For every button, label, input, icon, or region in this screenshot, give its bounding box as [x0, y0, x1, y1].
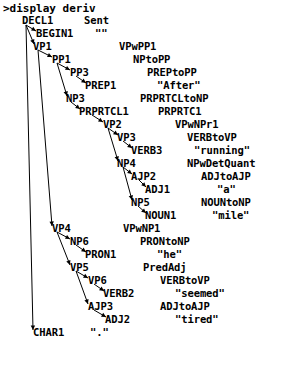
tree-rule-label: VPwNP1: [123, 222, 160, 234]
tree-node-label: VP2: [103, 118, 122, 130]
tree-rule-label: "tired": [175, 313, 219, 325]
terminal-screen: >display deriv DECL1SentBEGIN1""VP1VPwPP…: [0, 0, 291, 390]
tree-rule-label: VPwPP1: [119, 40, 156, 52]
tree-rule-label: "running": [194, 144, 250, 156]
tree-rule-label: PRONtoNP: [140, 235, 190, 247]
tree-rule-label: "a": [217, 183, 236, 195]
tree-rule-label: "": [95, 27, 107, 39]
tree-rule-label: ADJtoAJP: [201, 170, 251, 182]
tree-node-label: PP3: [70, 66, 89, 78]
tree-edge: [26, 25, 33, 330]
tree-node-label: VERB2: [103, 287, 134, 299]
tree-node-label: NOUN1: [145, 209, 176, 221]
tree-node-label: DECL1: [22, 14, 53, 26]
tree-node-label: NP5: [131, 196, 150, 208]
tree-node-label: VERB3: [131, 144, 162, 156]
tree-node-label: VP3: [117, 131, 136, 143]
tree-node-label: VP5: [70, 261, 89, 273]
tree-node-label: ADJ2: [105, 313, 130, 325]
tree-rule-label: NOUNtoNP: [201, 196, 251, 208]
tree-node-label: BEGIN1: [36, 27, 73, 39]
tree-rule-label: PRPRTC1: [158, 105, 202, 117]
tree-rule-label: "mile": [212, 209, 249, 221]
tree-node-label: NP6: [70, 235, 89, 247]
tree-node-label: AJP3: [88, 300, 113, 312]
tree-node-label: NP3: [66, 92, 85, 104]
tree-rule-label: VERBtoVP: [187, 131, 237, 143]
tree-rule-label: "After": [157, 79, 201, 91]
tree-rule-label: PREPtoPP: [147, 66, 197, 78]
tree-rule-label: NPwDetQuant: [187, 157, 255, 169]
tree-node-label: VP6: [88, 274, 107, 286]
tree-rule-label: ".": [90, 326, 109, 338]
tree-rule-label: PRPRTCLtoNP: [140, 92, 208, 104]
tree-node-label: PP1: [52, 53, 71, 65]
tree-node-label: PRON1: [85, 248, 116, 260]
tree-rule-label: ADJtoAJP: [160, 300, 210, 312]
tree-node-label: VP4: [52, 222, 71, 234]
tree-rule-label: VERBtoVP: [160, 274, 210, 286]
tree-rule-label: "seemed": [175, 287, 225, 299]
tree-rule-label: PredAdj: [143, 261, 187, 273]
tree-node-label: ADJ1: [145, 183, 170, 195]
tree-rule-label: "he": [157, 248, 182, 260]
tree-edge: [38, 50, 52, 226]
tree-node-label: VP1: [33, 40, 52, 52]
tree-rule-label: VPwNPr1: [175, 118, 219, 130]
tree-node-label: PREP1: [85, 79, 116, 91]
tree-node-label: CHAR1: [33, 326, 64, 338]
tree-rule-label: Sent: [84, 14, 109, 26]
tree-rule-label: NPtoPP: [133, 53, 170, 65]
tree-node-label: PRPRTCL1: [79, 105, 129, 117]
tree-node-label: NP4: [117, 157, 136, 169]
tree-node-label: AJP2: [131, 170, 156, 182]
